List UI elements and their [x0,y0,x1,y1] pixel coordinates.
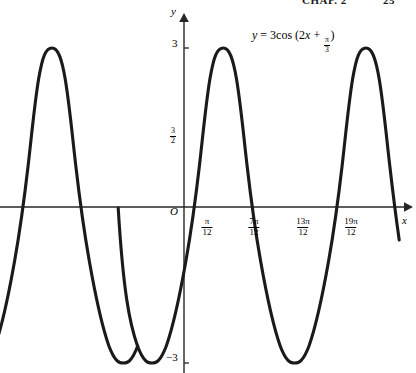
cosine-curve-2 [118,48,399,363]
y-axis-label: y [171,6,176,17]
equation-annotation: y = 3cos (2x + π 3 ) [252,28,334,54]
tick3-num: 13π [295,217,311,227]
x-tick-label-2: 7π 12 [248,216,259,237]
y-tick-label-neg3: −3 [166,352,178,363]
tick2-num: 7π [248,217,259,227]
x-tick-label-3: 13π 12 [295,216,311,237]
origin-label: O [170,206,178,217]
x-axis-label: x [402,215,407,226]
equation-phase-fraction: π 3 [324,36,330,54]
equation-lhs: y [252,28,257,42]
three-halves-numerator: 3 [170,127,176,136]
cosine-graph-plot [0,0,416,373]
x-tick-label-4: 19π 12 [343,216,359,237]
tick4-den: 12 [345,227,356,238]
tick4-num: 19π [343,217,359,227]
y-value-label-three-halves: 3 2 [170,126,176,145]
y-tick-label-3: 3 [172,38,178,49]
equation-function: cos [276,28,292,42]
figure-page: CHAP. 2 25 y x O 3 −3 3 2 π 12 [0,0,416,373]
equation-plus: + [313,28,320,42]
tick1-num: π [204,217,211,227]
equation-phase-denominator: 3 [324,45,330,54]
tick1-den: 12 [201,227,212,238]
three-halves-denominator: 2 [170,136,176,146]
y-axis-arrow [179,13,189,22]
x-axis-arrow [404,202,413,212]
equation-inner-variable: x [305,28,310,42]
cosine-curve [0,48,138,363]
x-tick-label-1: π 12 [201,216,212,237]
equation-close-paren: ) [330,28,334,42]
tick2-den: 12 [248,227,259,238]
equation-equals: = [260,28,267,42]
tick3-den: 12 [297,227,308,238]
equation-phase-numerator: π [324,36,330,44]
